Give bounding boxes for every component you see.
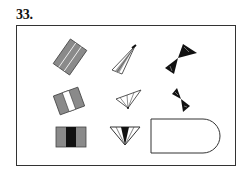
cell-r1c1-striped-rectangle: [53, 39, 87, 75]
cell-r3c1-gray-black-gray-rectangle: [56, 127, 86, 147]
cell-r1c3-black-bowtie: [165, 44, 197, 74]
cell-r2c1-white-center-rectangle: [53, 87, 84, 115]
cell-r2c2-wide-fan: [116, 90, 141, 109]
cell-r1c2-narrow-fan: [112, 45, 136, 74]
cell-r3c3-answer-placeholder: [151, 119, 220, 153]
matrix-figures: [0, 0, 250, 176]
cell-r3c2-inverted-triangle: [110, 127, 140, 145]
cell-r2c3-small-bowtie: [172, 88, 190, 112]
